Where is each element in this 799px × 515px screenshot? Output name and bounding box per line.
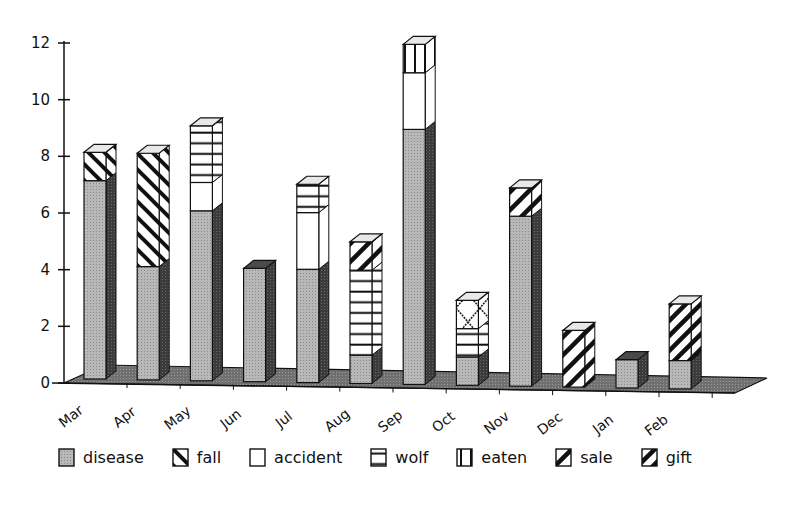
bar-segment-wolf <box>456 329 478 357</box>
bar-segment-disease <box>616 360 638 388</box>
legend: diseasefallaccidentwolfeatensalegift <box>58 448 720 467</box>
legend-label: fall <box>197 448 221 467</box>
legend-item-disease: disease <box>58 448 144 467</box>
sale-swatch-icon <box>555 448 572 467</box>
x-tick-label-nov: Nov <box>481 408 512 437</box>
bar-jun <box>244 260 276 381</box>
bar-segment-unlabeledcrosshatch <box>456 300 478 328</box>
x-tick-label-mar: Mar <box>56 401 87 430</box>
legend-item-gift: gift <box>641 448 692 467</box>
bar-side-disease <box>159 259 169 380</box>
accident-swatch-icon <box>249 448 266 467</box>
legend-label: accident <box>274 448 342 467</box>
y-tick-label: 0 <box>40 374 50 392</box>
bar-jan <box>616 352 648 388</box>
legend-item-eaten: eaten <box>456 448 527 467</box>
legend-item-fall: fall <box>172 448 221 467</box>
bar-feb <box>669 296 701 389</box>
y-tick-label: 12 <box>31 34 50 52</box>
bar-nov <box>510 180 542 386</box>
bar-segment-disease <box>190 211 212 381</box>
bar-segment-disease <box>669 361 691 389</box>
stacked-bar-chart: 024681012 MarAprMayJunJulAugSepOctNovDec… <box>0 0 799 515</box>
bar-segment-disease <box>137 267 159 380</box>
bar-segment-disease <box>456 357 478 385</box>
bar-side-accident <box>319 205 329 270</box>
bar-side-accident <box>425 65 435 130</box>
disease-swatch-icon <box>58 448 75 467</box>
bar-dec <box>563 322 595 387</box>
legend-label: wolf <box>395 448 428 467</box>
bar-side-disease <box>212 203 222 381</box>
legend-item-accident: accident <box>249 448 342 467</box>
x-tick-label-dec: Dec <box>534 409 565 438</box>
bar-segment-disease <box>510 216 532 386</box>
gift-swatch-icon <box>641 448 658 467</box>
bar-side-disease <box>425 121 435 384</box>
legend-label: gift <box>666 448 692 467</box>
y-tick-label: 10 <box>31 91 50 109</box>
bar-may <box>190 118 222 381</box>
y-tick-label: 2 <box>40 317 50 335</box>
bar-segment-gift <box>669 304 691 361</box>
bar-segment-accident <box>297 213 319 270</box>
bar-side-wolf <box>372 262 382 355</box>
bar-jul <box>297 176 329 382</box>
bar-aug <box>350 234 382 384</box>
legend-label: disease <box>83 448 144 467</box>
x-tick-label-aug: Aug <box>321 405 352 434</box>
x-tick-label-apr: Apr <box>110 403 139 431</box>
bar-segment-wolf <box>350 270 372 355</box>
bar-segment-disease <box>84 181 106 379</box>
bar-mar <box>84 144 116 379</box>
bar-segment-disease <box>244 268 266 381</box>
bar-segment-disease <box>403 129 425 384</box>
bar-side-disease <box>106 173 116 379</box>
legend-label: eaten <box>481 448 527 467</box>
x-tick-label-jul: Jul <box>271 408 295 432</box>
bar-side-gift <box>691 296 701 361</box>
y-axis: 024681012 <box>31 34 735 393</box>
bar-segment-wolf <box>297 184 319 212</box>
y-tick-label: 6 <box>40 204 50 222</box>
bar-segment-eaten <box>403 44 425 72</box>
x-axis-labels: MarAprMayJunJulAugSepOctNovDecJanFeb <box>56 401 671 438</box>
bar-side-disease <box>266 260 276 381</box>
x-tick-label-may: May <box>161 402 194 432</box>
wolf-swatch-icon <box>370 448 387 467</box>
y-tick-label: 4 <box>40 261 50 279</box>
bar-segment-sale <box>510 188 532 216</box>
bar-segment-wolf <box>190 126 212 183</box>
x-tick-label-oct: Oct <box>429 408 458 436</box>
x-tick-label-feb: Feb <box>641 411 670 439</box>
y-tick-label: 8 <box>40 147 50 165</box>
bar-side-fall <box>159 145 169 266</box>
x-tick-label-jan: Jan <box>589 411 617 438</box>
bar-segment-accident <box>190 182 212 210</box>
bar-segment-accident <box>403 73 425 130</box>
bar-side-wolf <box>212 118 222 183</box>
bar-segment-disease <box>350 355 372 383</box>
eaten-swatch-icon <box>456 448 473 467</box>
bar-segment-fall <box>84 152 106 180</box>
legend-item-wolf: wolf <box>370 448 428 467</box>
bar-apr <box>137 145 169 380</box>
bar-sep <box>403 36 435 384</box>
bar-side-sale <box>585 322 595 387</box>
bar-segment-sale <box>563 330 585 387</box>
bar-side-disease <box>319 261 329 382</box>
legend-item-sale: sale <box>555 448 612 467</box>
legend-label: sale <box>580 448 612 467</box>
x-tick-label-sep: Sep <box>375 406 406 435</box>
bar-oct <box>456 292 488 385</box>
x-tick-label-jun: Jun <box>216 405 244 432</box>
bar-segment-fall <box>137 153 159 266</box>
bars <box>84 36 712 398</box>
bar-segment-disease <box>297 269 319 382</box>
fall-swatch-icon <box>172 448 189 467</box>
bar-segment-sale <box>350 242 372 270</box>
bar-side-disease <box>532 208 542 386</box>
